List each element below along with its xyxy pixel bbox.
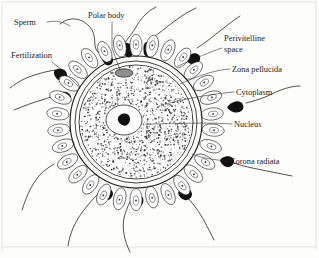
corona-radiata-cell [130, 34, 142, 56]
sperm-cell [178, 188, 214, 240]
corona-radiata-cell [201, 123, 225, 137]
label-fertilization: Fertilization [11, 51, 53, 60]
label-corona-radiata: Corona radiata [230, 157, 280, 166]
label-perivitelline-space-line1: Perivitelline [224, 34, 265, 43]
sperm-cell [10, 69, 67, 88]
label-perivitelline-space-line2: space [224, 45, 243, 54]
corona-radiata-cell [48, 88, 73, 107]
label-zona-pellucida: Zona pellucida [232, 65, 282, 74]
leader-sperm [47, 21, 70, 26]
corona-radiata-cell [130, 188, 142, 210]
corona-radiata-cell [199, 88, 224, 107]
corona-radiata-cell [47, 123, 71, 137]
diagram-canvas: Sperm Polar body Fertilization Perivitel… [0, 0, 319, 258]
corona-radiata-cell [46, 107, 70, 121]
label-polar-body: Polar body [88, 11, 125, 20]
polar-body [115, 69, 133, 77]
corona-radiata-cell [144, 185, 161, 209]
label-cytoplasm: Cytoplasm [236, 88, 273, 97]
label-nucleus: Nucleus [234, 120, 261, 129]
corona-radiata-cell [198, 137, 223, 156]
label-sperm: Sperm [14, 18, 36, 27]
corona-radiata-cell [111, 187, 128, 211]
fertilization-diagram: Sperm Polar body Fertilization Perivitel… [0, 0, 319, 258]
corona-radiata-cell [200, 107, 224, 121]
